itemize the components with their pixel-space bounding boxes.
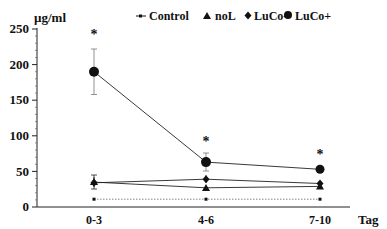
x-tick-0-3: 0-3 <box>86 213 102 227</box>
y-tick-200: 200 <box>10 57 30 72</box>
legend-control: Control <box>149 9 189 23</box>
x-axis: 0-3 4-6 7-10 Tag <box>37 207 379 227</box>
y-tick-250: 250 <box>10 21 30 36</box>
y-tick-0: 0 <box>23 199 30 214</box>
y-tick-150: 150 <box>10 92 30 107</box>
y-axis: 250 200 150 100 50 0 <box>10 21 38 214</box>
legend-luco-minus: LuCo- <box>254 9 287 23</box>
star-4-6: * <box>203 134 210 149</box>
line-chart: µg/ml Control noL LuCo- LuCo+ 250 <box>0 0 387 229</box>
series-control <box>93 198 322 201</box>
y-axis-unit: µg/ml <box>34 10 66 25</box>
star-0-3: * <box>91 27 98 42</box>
legend: Control noL LuCo- LuCo+ <box>136 9 331 23</box>
y-tick-100: 100 <box>10 128 30 143</box>
significance-markers: * * * <box>91 27 324 162</box>
control-marker-icon <box>139 15 142 18</box>
x-tick-7-10: 7-10 <box>309 213 331 227</box>
x-tick-4-6: 4-6 <box>198 213 214 227</box>
x-axis-unit: Tag <box>358 212 379 227</box>
legend-luco-plus: LuCo+ <box>295 9 331 23</box>
triangle-marker-icon <box>203 12 211 19</box>
circle-marker-icon <box>284 11 292 19</box>
legend-nol: noL <box>215 9 236 23</box>
diamond-marker-icon <box>245 12 252 20</box>
star-7-10: * <box>317 147 324 162</box>
series-luco-plus <box>89 49 325 174</box>
y-tick-50: 50 <box>16 164 29 179</box>
